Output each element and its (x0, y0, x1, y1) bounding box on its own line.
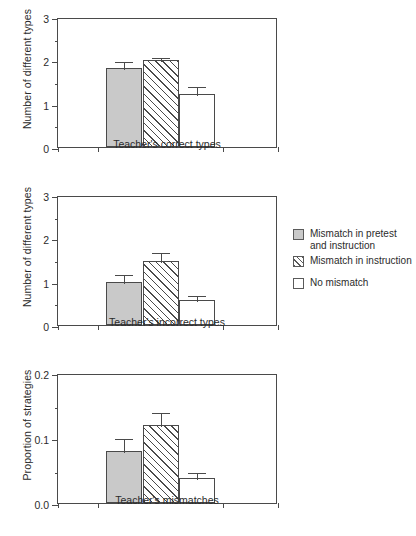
y-tick-major (52, 19, 58, 20)
error-bar-cap (152, 253, 170, 254)
bar-hatch (143, 60, 179, 147)
error-bar-cap (188, 87, 206, 88)
y-tick-label: 2 (43, 57, 49, 67)
y-tick-label: 2 (43, 235, 49, 245)
y-tick-minor (55, 41, 59, 42)
error-bar-line (161, 253, 162, 263)
chart-panel-teachers-incorrect-types: Number of different types 0123 Teacher's… (0, 178, 290, 358)
plot-area: 0123 (57, 196, 277, 326)
y-tick-label: 1 (43, 279, 49, 289)
error-bar-cap (188, 296, 206, 297)
legend-item-mismatch-instruction: Mismatch in instruction (293, 255, 416, 268)
y-tick-label: 0 (43, 144, 49, 154)
chart-panel-teachers-mismatches: Proportion of strategies 0.00.10.2 Teach… (0, 356, 290, 536)
chart-panel-teachers-correct-types: Number of different types 0123 Teacher's… (0, 0, 290, 180)
y-axis-label: Proportion of strategies (20, 359, 34, 491)
y-tick-major (52, 197, 58, 198)
x-axis-label: Teacher's correct types (57, 138, 277, 150)
legend-swatch-solid-gray (293, 229, 304, 240)
error-bar-line (124, 62, 125, 69)
y-tick-label: 0.1 (34, 435, 49, 445)
y-tick-major (52, 106, 58, 107)
y-axis-label: Number of different types (20, 3, 34, 135)
y-tick-label: 3 (43, 14, 49, 24)
error-bar-cap (115, 62, 133, 63)
error-bar-cap (188, 473, 206, 474)
legend-label-line1: Mismatch in pretest (310, 228, 416, 240)
error-bar-cap (152, 58, 170, 59)
plot-frame: 0123 (57, 18, 277, 148)
y-tick-label: 3 (43, 192, 49, 202)
legend-item-mismatch-pretest-instruction: Mismatch in pretest and instruction (293, 228, 416, 252)
y-tick-label: 0.0 (34, 500, 49, 510)
legend-swatch-hatched (293, 256, 304, 267)
x-axis-label: Teacher's mismatches (57, 494, 277, 506)
y-tick-minor (55, 84, 59, 85)
y-tick-minor (55, 219, 59, 220)
y-tick-label: 1 (43, 101, 49, 111)
plot-frame: 0123 (57, 196, 277, 326)
y-tick-minor (55, 127, 59, 128)
error-bar-cap (152, 413, 170, 414)
legend-label-line2: and instruction (310, 240, 416, 252)
bar-hatch (143, 425, 179, 503)
y-tick-label: 0 (43, 322, 49, 332)
legend-label-line1: No mismatch (310, 277, 416, 289)
plot-area: 0.00.10.2 (57, 374, 277, 504)
plot-frame: 0.00.10.2 (57, 374, 277, 504)
y-axis-label: Number of different types (20, 181, 34, 313)
legend-label-line1: Mismatch in instruction (310, 255, 416, 267)
error-bar-cap (115, 275, 133, 276)
legend-swatch-open-white (293, 278, 304, 289)
legend-item-no-mismatch: No mismatch (293, 277, 416, 290)
error-bar-line (197, 473, 198, 480)
x-tick (278, 325, 279, 330)
y-tick-major (52, 375, 58, 376)
error-bar-line (197, 87, 198, 96)
y-tick-minor (55, 262, 59, 263)
y-tick-minor (55, 473, 59, 474)
y-tick-minor (55, 305, 59, 306)
y-tick-major (52, 440, 58, 441)
x-tick (278, 147, 279, 152)
y-tick-major (52, 240, 58, 241)
figure-three-panel-bar-charts: Number of different types 0123 Teacher's… (0, 0, 416, 536)
plot-area: 0123 (57, 18, 277, 148)
x-axis-label: Teacher's incorrect types (57, 316, 277, 328)
error-bar-cap (115, 439, 133, 440)
y-tick-major (52, 62, 58, 63)
y-tick-minor (55, 408, 59, 409)
y-tick-major (52, 284, 58, 285)
bar-solid (106, 68, 142, 147)
error-bar-line (124, 275, 125, 283)
error-bar-line (124, 439, 125, 453)
error-bar-line (161, 413, 162, 427)
y-tick-label: 0.2 (34, 370, 49, 380)
x-tick (278, 503, 279, 508)
legend: Mismatch in pretest and instruction Mism… (293, 228, 416, 293)
